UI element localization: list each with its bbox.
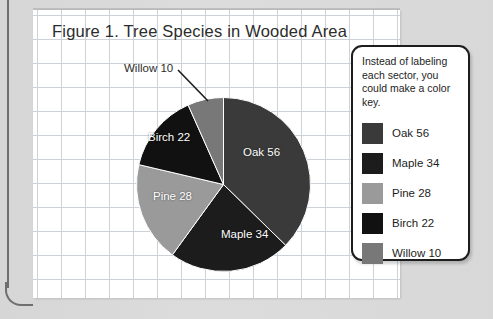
legend-swatch-icon xyxy=(362,213,383,234)
legend-swatch-icon xyxy=(362,243,383,264)
legend-swatch-icon xyxy=(362,183,383,204)
legend-label: Pine 28 xyxy=(392,187,431,199)
legend-label: Willow 10 xyxy=(392,247,441,259)
chart-title: Figure 1. Tree Species in Wooded Area xyxy=(52,22,347,41)
pie-chart-svg xyxy=(136,97,311,272)
legend-row: Pine 28 xyxy=(362,178,459,208)
legend-label: Maple 34 xyxy=(392,157,439,169)
legend-row: Oak 56 xyxy=(362,118,459,148)
binder-curve xyxy=(5,282,33,306)
legend-label: Birch 22 xyxy=(392,217,434,229)
legend-swatch-icon xyxy=(362,123,383,144)
legend-label: Oak 56 xyxy=(392,127,429,139)
pie-chart xyxy=(136,97,311,272)
color-key-note: Instead of labeling each sector, you cou… xyxy=(362,55,459,109)
legend-row: Maple 34 xyxy=(362,148,459,178)
page-background: Figure 1. Tree Species in Wooded Area Oa… xyxy=(0,0,493,319)
pie-label-willow: Willow 10 xyxy=(124,62,173,74)
legend-swatch-icon xyxy=(362,153,383,174)
pie-label-birch: Birch 22 xyxy=(148,131,190,143)
legend-row: Birch 22 xyxy=(362,208,459,238)
legend-row: Willow 10 xyxy=(362,238,459,268)
pie-label-pine: Pine 28 xyxy=(153,190,192,202)
color-key-list: Oak 56Maple 34Pine 28Birch 22Willow 10 xyxy=(362,118,459,268)
pie-label-oak: Oak 56 xyxy=(243,146,280,158)
color-key-box: Instead of labeling each sector, you cou… xyxy=(351,45,470,261)
binder-rule xyxy=(7,0,9,288)
pie-label-maple: Maple 34 xyxy=(221,228,268,240)
